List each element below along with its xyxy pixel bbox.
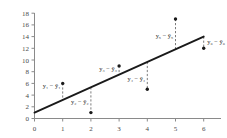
y-tick-label: 16 xyxy=(22,21,30,29)
data-point xyxy=(89,111,92,114)
x-tick-label: 4 xyxy=(146,125,150,133)
y-tick-10: 10 xyxy=(22,57,35,65)
x-tick-0: 0 xyxy=(33,119,37,134)
x-tick-label: 0 xyxy=(33,125,37,133)
y-tick-label: 2 xyxy=(26,103,30,111)
data-point xyxy=(61,82,64,85)
x-tick-1: 1 xyxy=(61,119,65,134)
y-tick-label: 14 xyxy=(22,33,30,41)
data-point xyxy=(117,64,120,67)
y-tick-label: 0 xyxy=(26,115,30,123)
x-axis-ticks: 0 1 2 3 4 5 6 xyxy=(33,119,206,134)
y-tick-2: 2 xyxy=(26,103,35,111)
x-tick-4: 4 xyxy=(146,119,150,134)
residual-label-1: y₁ − ŷ₁ xyxy=(43,82,61,89)
axes-group xyxy=(35,13,222,119)
data-point xyxy=(146,88,149,91)
residual-label-3: y₃ − ŷ₃ xyxy=(99,65,117,72)
y-tick-label: 6 xyxy=(26,80,30,88)
y-tick-label: 12 xyxy=(22,45,30,53)
x-tick-label: 6 xyxy=(202,125,206,133)
y-tick-label: 8 xyxy=(26,68,30,76)
y-tick-18: 18 xyxy=(22,10,35,18)
residual-label-2: y₂ − ŷ₂ xyxy=(71,98,89,105)
y-tick-label: 10 xyxy=(22,57,30,65)
x-tick-label: 5 xyxy=(174,125,178,133)
data-point xyxy=(174,17,177,20)
y-tick-14: 14 xyxy=(22,33,35,41)
y-axis-ticks: 0 2 4 6 8 10 1 xyxy=(22,10,35,123)
y-tick-label: 18 xyxy=(22,10,30,18)
y-tick-12: 12 xyxy=(22,45,35,53)
x-tick-label: 2 xyxy=(89,125,93,133)
fitted-regression-line xyxy=(35,37,204,113)
x-tick-2: 2 xyxy=(89,119,93,134)
x-tick-6: 6 xyxy=(202,119,206,134)
y-tick-16: 16 xyxy=(22,21,35,29)
residual-label-5: y₅ − ŷ₅ xyxy=(156,32,174,39)
x-tick-label: 3 xyxy=(117,125,121,133)
x-tick-5: 5 xyxy=(174,119,178,134)
y-tick-6: 6 xyxy=(26,80,35,88)
chart-figure: 0 2 4 6 8 10 1 xyxy=(0,0,227,138)
x-tick-3: 3 xyxy=(117,119,121,134)
y-tick-label: 4 xyxy=(26,92,30,100)
y-tick-0: 0 xyxy=(26,115,35,123)
residual-scatter-plot: 0 2 4 6 8 10 1 xyxy=(0,0,227,138)
y-tick-4: 4 xyxy=(26,92,35,100)
residual-label-6: y₆ − ŷ₆ xyxy=(207,38,225,45)
data-point xyxy=(202,47,205,50)
y-tick-8: 8 xyxy=(26,68,35,76)
residual-label-4: y₄ − ŷ₄ xyxy=(127,75,145,82)
x-tick-label: 1 xyxy=(61,125,65,133)
